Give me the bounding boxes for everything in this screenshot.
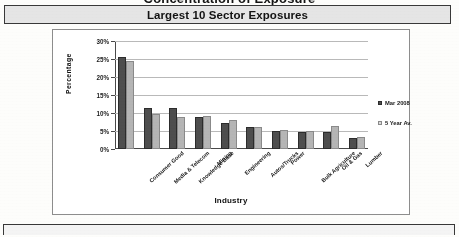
x-axis-tick-labels: Consumer GoodMedia & TelecomKnowledge Ba… (115, 150, 368, 196)
bar-group (118, 41, 134, 149)
bar (195, 117, 203, 149)
bar (144, 108, 152, 149)
bar (152, 114, 160, 149)
chart-legend: Mar 20085 Year Av. (378, 100, 448, 140)
y-axis-tick-label: 15% (96, 92, 109, 99)
bar (331, 126, 339, 149)
legend-item: Mar 2008 (378, 100, 448, 106)
bar (177, 117, 185, 149)
y-axis-title: Percentage (65, 53, 72, 94)
bar (349, 138, 357, 149)
legend-swatch (378, 101, 382, 105)
y-axis-tick-label: 25% (96, 56, 109, 63)
scanned-page: Concentration of Exposure Largest 10 Sec… (0, 0, 459, 237)
x-axis-tick-label: Engineering (244, 150, 272, 176)
plot-area: 0%5%10%15%20%25%30% (115, 41, 368, 149)
bar (118, 57, 126, 149)
y-axis-tick-label: 10% (96, 110, 109, 117)
y-axis-tick-label: 20% (96, 74, 109, 81)
next-section-rule (3, 224, 455, 235)
bar (306, 131, 314, 149)
bar (221, 123, 229, 149)
bar-group (169, 41, 185, 149)
legend-item: 5 Year Av. (378, 120, 448, 126)
bar (246, 127, 254, 149)
bar (229, 120, 237, 149)
bar-group (144, 41, 160, 149)
bar-series-layer (115, 41, 368, 149)
bar (272, 131, 280, 149)
bar (254, 127, 262, 149)
legend-label: Mar 2008 (385, 100, 410, 106)
bar-group (323, 41, 339, 149)
bar-group (221, 41, 237, 149)
x-axis-tick-label: Lumber (364, 150, 383, 168)
bar-group (195, 41, 211, 149)
legend-label: 5 Year Av. (385, 120, 412, 126)
subtitle-banner: Largest 10 Sector Exposures (4, 5, 451, 24)
bar-group (272, 41, 288, 149)
y-axis-tick-label: 5% (100, 128, 109, 135)
bar (323, 132, 331, 149)
legend-swatch (378, 121, 382, 125)
bar (126, 61, 134, 149)
bar-group (349, 41, 365, 149)
bar (298, 132, 306, 149)
y-axis-tick-label: 30% (96, 38, 109, 45)
bar-group (298, 41, 314, 149)
x-axis-tick-label: Bulk Agriculture (321, 150, 357, 183)
bar (169, 108, 177, 149)
subtitle-text: Largest 10 Sector Exposures (147, 9, 308, 21)
bar (357, 137, 365, 149)
bar (280, 130, 288, 149)
bar-group (246, 41, 262, 149)
chart-container: Percentage 0%5%10%15%20%25%30% Consumer … (52, 29, 410, 215)
bar (203, 116, 211, 149)
y-axis-tick-label: 0% (100, 146, 109, 153)
x-axis-title: Industry (53, 196, 409, 205)
